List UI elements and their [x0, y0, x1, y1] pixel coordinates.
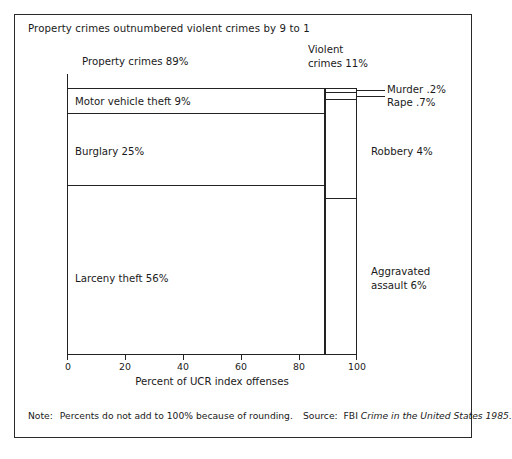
- x-tick-60: [241, 355, 242, 360]
- callout-murder: Murder .2%: [387, 83, 446, 97]
- x-tick-label-40: 40: [177, 361, 189, 372]
- source-title: Crime in the United States 1985.: [361, 410, 512, 421]
- bar-label-motor-vehicle-theft: Motor vehicle theft 9%: [75, 95, 191, 108]
- callout-aggravated-line-2: assault 6%: [371, 279, 430, 293]
- property-crimes-header: Property crimes 89%: [82, 56, 188, 67]
- x-tick-80: [299, 355, 300, 360]
- leader-line-rape: [356, 96, 385, 97]
- bar-label-burglary: Burglary 25%: [75, 145, 144, 158]
- figure-source: Source: FBI Crime in the United States 1…: [303, 410, 512, 421]
- source-label: Source:: [303, 410, 338, 421]
- x-tick-20: [125, 355, 126, 360]
- x-axis-title: Percent of UCR index offenses: [135, 376, 288, 387]
- figure-caption: Property crimes outnumbered violent crim…: [28, 23, 310, 34]
- x-tick-label-20: 20: [119, 361, 131, 372]
- bar-segment-aggravated-assault: [325, 198, 357, 355]
- callout-aggravated-line-1: Aggravated: [371, 265, 430, 279]
- plot-area: 0 20 40 60 80 100 Percent of UCR index o…: [67, 74, 357, 355]
- bar-label-larceny-theft: Larceny theft 56%: [75, 272, 168, 285]
- figure-note: Note: Percents do not add to 100% becaus…: [28, 410, 293, 421]
- bar-segment-robbery: [325, 99, 357, 199]
- x-tick-0: [67, 355, 68, 360]
- x-tick-label-0: 0: [65, 361, 71, 372]
- x-tick-label-80: 80: [293, 361, 305, 372]
- x-tick-label-60: 60: [235, 361, 247, 372]
- x-tick-40: [183, 355, 184, 360]
- callout-aggravated-assault: Aggravated assault 6%: [371, 265, 430, 292]
- leader-line-murder: [356, 90, 385, 91]
- violent-crimes-header: Violent crimes 11%: [308, 43, 368, 70]
- violent-header-line-1: Violent: [308, 43, 368, 57]
- source-agency: FBI: [344, 410, 358, 421]
- x-tick-100: [356, 355, 357, 360]
- note-label: Note:: [28, 410, 53, 421]
- note-text: Percents do not add to 100% because of r…: [60, 410, 293, 421]
- x-tick-label-100: 100: [348, 361, 366, 372]
- violent-header-line-2: crimes 11%: [308, 57, 368, 71]
- figure-frame: Property crimes outnumbered violent crim…: [14, 14, 472, 438]
- callout-robbery: Robbery 4%: [371, 145, 433, 159]
- bar-segment-larceny-theft: [67, 185, 325, 355]
- callout-rape: Rape .7%: [387, 96, 435, 110]
